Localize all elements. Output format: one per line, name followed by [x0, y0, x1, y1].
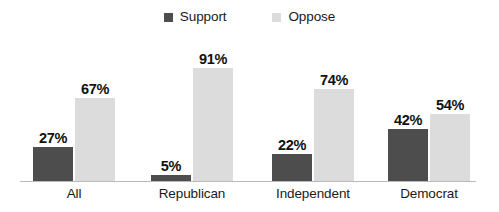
bar-support[interactable]: 42%	[388, 129, 428, 181]
bar-oppose[interactable]: 91%	[193, 68, 233, 181]
bar-rect	[388, 129, 428, 181]
bar-value-label: 27%	[39, 131, 67, 146]
bar-pair: 5%91%	[151, 68, 233, 181]
plot-area: 27%67%All5%91%Republican22%74%Independen…	[0, 0, 499, 212]
bar-rect	[151, 175, 191, 181]
grouped-bar-chart: Support Oppose 27%67%All5%91%Republican2…	[0, 0, 499, 212]
bar-pair: 22%74%	[272, 89, 354, 181]
bar-group: 22%74%Independent	[272, 0, 354, 212]
bar-group: 42%54%Democrat	[388, 0, 470, 212]
bar-oppose[interactable]: 74%	[314, 89, 354, 181]
bar-support[interactable]: 5%	[151, 175, 191, 181]
category-label: All	[33, 185, 115, 203]
bar-group: 27%67%All	[33, 0, 115, 212]
bar-rect	[314, 89, 354, 181]
bar-group: 5%91%Republican	[151, 0, 233, 212]
bar-value-label: 54%	[436, 98, 464, 113]
category-label: Republican	[151, 185, 233, 203]
category-label: Democrat	[388, 185, 470, 203]
bar-rect	[33, 147, 73, 181]
bar-value-label: 91%	[199, 52, 227, 67]
bar-oppose[interactable]: 54%	[430, 114, 470, 181]
bar-pair: 27%67%	[33, 98, 115, 181]
bar-value-label: 5%	[161, 159, 181, 174]
bar-value-label: 22%	[278, 138, 306, 153]
bar-value-label: 74%	[320, 73, 348, 88]
bar-support[interactable]: 22%	[272, 154, 312, 181]
bar-value-label: 42%	[394, 113, 422, 128]
bar-support[interactable]: 27%	[33, 147, 73, 181]
bar-rect	[272, 154, 312, 181]
bar-oppose[interactable]: 67%	[75, 98, 115, 181]
bar-rect	[75, 98, 115, 181]
category-label: Independent	[272, 185, 354, 203]
bar-rect	[430, 114, 470, 181]
bar-rect	[193, 68, 233, 181]
bar-value-label: 67%	[81, 82, 109, 97]
bar-pair: 42%54%	[388, 114, 470, 181]
